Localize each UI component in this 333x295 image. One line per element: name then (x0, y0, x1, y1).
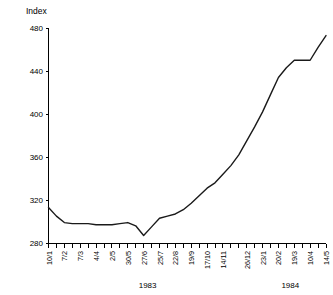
x-axis-tick-label: 10/4 (306, 251, 315, 265)
line-chart: Index 280320360400440480 10/17/27/34/42/… (0, 0, 333, 295)
x-axis-tick-label: 14/5 (322, 251, 331, 265)
year-label: 1983 (139, 281, 157, 290)
x-axis-tick-label: 14/11 (219, 251, 228, 268)
x-axis-tick-label: 4/4 (92, 251, 101, 261)
x-axis-tick-label: 19/3 (290, 251, 299, 265)
y-axis-tick-label: 480 (30, 24, 44, 33)
x-axis-tick-label: 23/1 (259, 251, 268, 265)
y-axis-tick-label: 360 (30, 153, 44, 162)
x-axis-tick-label: 30/5 (124, 251, 133, 265)
y-axis-tick-label: 320 (30, 196, 44, 205)
chart-container: Index 280320360400440480 10/17/27/34/42/… (0, 0, 333, 295)
y-axis-tick-label: 400 (30, 110, 44, 119)
x-axis-tick-marks (49, 244, 327, 248)
x-axis-tick-label: 26/12 (243, 251, 252, 269)
y-axis-tick-labels: 280320360400440480 (30, 24, 44, 248)
year-group-labels: 19831984 (139, 281, 300, 290)
x-axis-tick-label: 7/2 (60, 251, 69, 261)
x-axis-tick-label: 22/8 (171, 251, 180, 265)
x-axis-tick-label: 17/10 (203, 251, 212, 269)
x-axis-tick-label: 19/9 (187, 251, 196, 265)
y-axis-tick-label: 440 (30, 67, 44, 76)
x-axis-tick-label: 10/1 (45, 251, 54, 265)
y-axis-title: Index (26, 6, 48, 16)
x-axis-tick-label: 25/7 (156, 251, 165, 265)
x-axis-tick-labels: 10/17/27/34/42/530/527/625/722/819/917/1… (45, 251, 332, 269)
year-label: 1984 (281, 281, 299, 290)
x-axis-tick-label: 20/2 (274, 251, 283, 265)
x-axis-tick-label: 2/5 (108, 251, 117, 261)
y-axis-tick-label: 280 (30, 239, 44, 248)
x-axis-tick-label: 7/3 (76, 251, 85, 261)
x-axis-tick-label: 27/6 (140, 251, 149, 265)
index-series-line (49, 36, 327, 236)
